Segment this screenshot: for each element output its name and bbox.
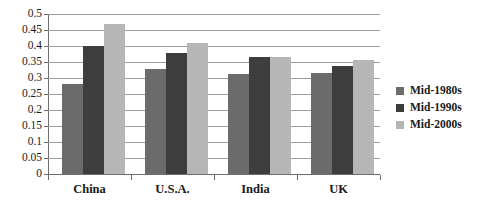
y-axis-tick-label: 0.4 (0, 40, 42, 52)
y-axis-tick-label: 0.2 (0, 104, 42, 116)
y-axis-tick-label: 0.25 (0, 88, 42, 100)
legend-label: Mid-1980s (410, 85, 462, 97)
legend-swatch-icon (396, 87, 404, 95)
legend-label: Mid-2000s (410, 119, 462, 131)
legend-item[interactable]: Mid-1990s (396, 99, 462, 116)
bar (104, 24, 125, 174)
chart-legend: Mid-1980sMid-1990sMid-2000s (396, 82, 462, 133)
legend-label: Mid-1990s (410, 102, 462, 114)
legend-swatch-icon (396, 104, 404, 112)
y-axis-tick-label: 0.35 (0, 56, 42, 68)
bar-chart: 0.50.450.40.350.30.250.20.150.10.050 Chi… (0, 0, 482, 208)
bar (145, 69, 166, 174)
bar-group (228, 14, 291, 174)
bar (62, 84, 83, 174)
legend-item[interactable]: Mid-1980s (396, 82, 462, 99)
bar-group (62, 14, 125, 174)
bar (332, 66, 353, 174)
y-axis-tick-label: 0.3 (0, 72, 42, 84)
x-axis-tick (214, 175, 215, 180)
x-axis-category-label: China (45, 183, 135, 197)
bar-group (311, 14, 374, 174)
y-axis-tick-label: 0 (0, 168, 42, 180)
x-axis-tick (297, 175, 298, 180)
legend-item[interactable]: Mid-2000s (396, 116, 462, 133)
y-axis-tick-label: 0.1 (0, 136, 42, 148)
x-axis-category-label: India (211, 183, 301, 197)
x-axis-tick (380, 175, 381, 180)
x-axis-category-label: U.S.A. (128, 183, 218, 197)
x-axis-tick (48, 175, 49, 180)
bar-group (145, 14, 208, 174)
y-axis-tick-label: 0.5 (0, 8, 42, 20)
bar (270, 57, 291, 174)
y-axis-tick-label: 0.05 (0, 152, 42, 164)
plot-area (48, 14, 380, 174)
bar (249, 57, 270, 174)
bar (228, 74, 249, 174)
bar (166, 53, 187, 174)
bar (83, 46, 104, 174)
bar (187, 43, 208, 174)
bar (311, 73, 332, 174)
legend-swatch-icon (396, 121, 404, 129)
y-axis-tick-label: 0.45 (0, 24, 42, 36)
x-axis-category-label: UK (294, 183, 384, 197)
x-axis-tick (131, 175, 132, 180)
bar (353, 60, 374, 174)
y-axis-tick-label: 0.15 (0, 120, 42, 132)
